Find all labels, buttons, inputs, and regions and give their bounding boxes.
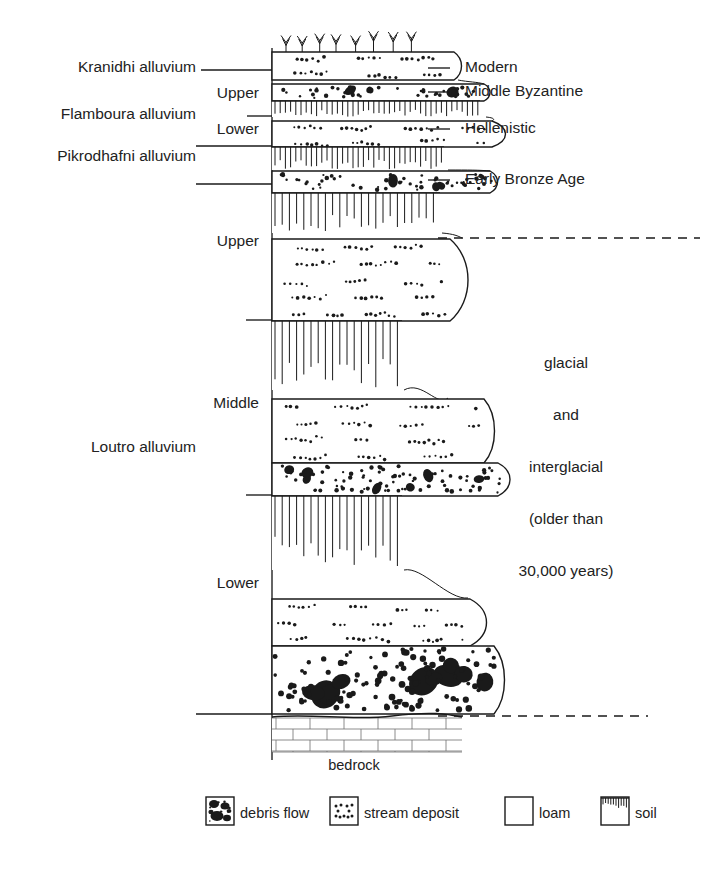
subdivision-label-loutro-middle: Middle [213, 394, 259, 411]
bed-soil [272, 321, 402, 390]
legend-swatch-loam [505, 797, 533, 825]
bedrock-pattern [272, 713, 462, 752]
subdivision-label-flamboura-upper: Upper [217, 84, 259, 101]
bed-debris-flow [272, 463, 510, 496]
legend-swatch-stream [330, 797, 358, 825]
legend-label-stream-deposit: stream deposit [364, 805, 459, 821]
unit-label-kranidhi: Kranidhi alluvium [78, 58, 196, 75]
bed-soil [272, 496, 402, 570]
age-text-years: 30,000 years) [519, 562, 614, 579]
bed-debris-flow [272, 84, 490, 101]
age-label-middle-byzantine: Middle Byzantine [465, 82, 583, 99]
bed-debris-flow [272, 171, 498, 193]
legend-label-soil: soil [635, 805, 657, 821]
age-text-older-than: (older than [529, 510, 603, 527]
legend-label-debris-flow: debris flow [240, 805, 310, 821]
bedrock-label: bedrock [328, 757, 380, 773]
age-label-modern: Modern [465, 58, 518, 75]
age-label-hellenistic: Hellenistic [465, 119, 536, 136]
bed-soil [272, 101, 480, 117]
bed-stream-deposit [272, 399, 495, 463]
age-text-and: and [553, 406, 579, 423]
bed-debris-flow [272, 646, 505, 714]
subdivision-label-loutro-lower: Lower [217, 574, 259, 591]
bed-stream-deposit [272, 599, 487, 646]
stratigraphic-column-figure: Kranidhi alluviumFlamboura alluviumPikro… [0, 0, 708, 877]
column-svg: Kranidhi alluviumFlamboura alluviumPikro… [0, 0, 708, 877]
unit-label-loutro: Loutro alluvium [91, 438, 196, 455]
unit-label-pikrodhafni: Pikrodhafni alluvium [57, 147, 196, 164]
age-label-early-bronze-age: Early Bronze Age [465, 170, 585, 187]
age-text-interglacial: interglacial [529, 458, 603, 475]
bed-soil [272, 147, 444, 170]
bed-soil [272, 193, 440, 233]
bed-stream-deposit [272, 239, 468, 321]
legend-label-loam: loam [539, 805, 570, 821]
subdivision-label-flamboura-lower: Lower [217, 120, 259, 137]
bed-stream-deposit [272, 52, 462, 80]
subdivision-label-loutro-upper: Upper [217, 232, 259, 249]
unit-label-flamboura: Flamboura alluvium [61, 105, 196, 122]
age-text-glacial: glacial [544, 354, 588, 371]
